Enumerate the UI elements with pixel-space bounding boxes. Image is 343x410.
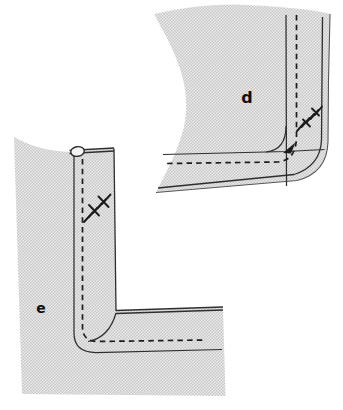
piece-d: d bbox=[154, 4, 330, 192]
panel-label-e: e bbox=[36, 300, 46, 316]
illustration-page: d e bbox=[0, 0, 343, 410]
sewing-diagram-canvas: d e bbox=[0, 0, 343, 410]
panel-label-d: d bbox=[241, 88, 252, 107]
